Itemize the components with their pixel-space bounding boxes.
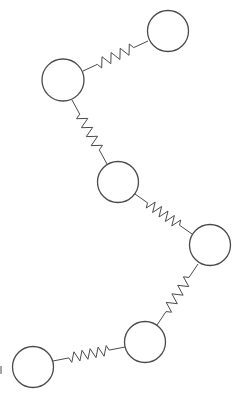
masses-layer xyxy=(13,11,231,388)
spring-1 xyxy=(83,41,148,71)
mass-circle-6 xyxy=(13,347,54,388)
mass-circle-2 xyxy=(42,59,84,101)
spring-2 xyxy=(72,100,107,164)
mass-circle-3 xyxy=(98,162,139,203)
mass-circle-1 xyxy=(148,11,189,52)
spring-mass-chain-diagram xyxy=(0,0,242,394)
spring-4 xyxy=(157,264,198,325)
spring-5 xyxy=(53,346,125,363)
spring-3 xyxy=(135,194,192,234)
mass-circle-5 xyxy=(125,322,166,363)
mass-circle-4 xyxy=(190,225,231,266)
